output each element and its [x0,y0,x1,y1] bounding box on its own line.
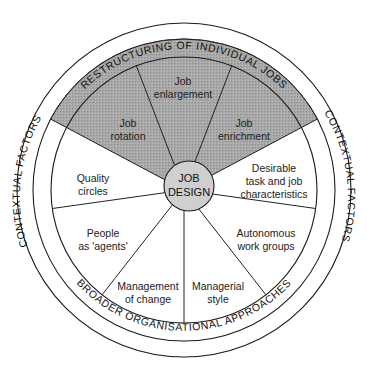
svg-text:Autonomous: Autonomous [237,227,296,239]
svg-text:Quality: Quality [77,172,110,184]
job-design-diagram: JOB DESIGN CONTEXTUAL FACTORS CONTEXTUAL… [0,0,367,382]
svg-text:style: style [207,293,229,305]
svg-text:Job: Job [175,75,192,87]
svg-text:characteristics: characteristics [240,188,307,200]
segment-quality-circles: Quality circles [77,172,110,197]
svg-text:Managerial: Managerial [192,280,244,292]
segment-autonomous-work-groups: Autonomous work groups [236,227,295,252]
contextual-factors-right-label: CONTEXTUAL FACTORS [322,108,358,244]
svg-text:as 'agents': as 'agents' [78,240,128,252]
center-label-line1: JOB [178,172,199,184]
svg-text:enlargement: enlargement [154,88,212,100]
svg-text:work groups: work groups [236,240,294,252]
segment-desirable-task: Desirable task and job characteristics [240,162,307,200]
svg-text:Job: Job [120,117,137,129]
svg-text:rotation: rotation [110,130,145,142]
svg-text:Management: Management [117,280,178,292]
segment-people-as-agents: People as 'agents' [78,227,128,252]
center-label-line2: DESIGN [168,186,210,198]
svg-text:enrichment: enrichment [218,130,270,142]
svg-text:task and job: task and job [246,175,303,187]
svg-text:circles: circles [78,185,108,197]
segment-managerial-style: Managerial style [192,280,244,305]
segment-management-of-change: Management of change [117,280,178,305]
svg-text:Desirable: Desirable [252,162,297,174]
svg-text:People: People [87,227,120,239]
svg-text:Job: Job [236,117,253,129]
svg-text:of change: of change [125,293,171,305]
